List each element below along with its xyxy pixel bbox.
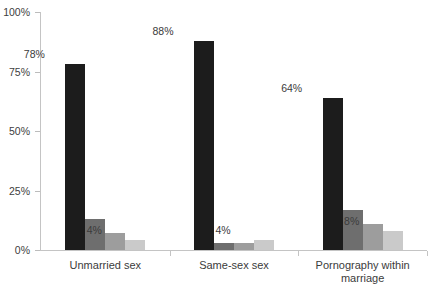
x-axis-line [40, 250, 427, 251]
y-axis-tick-label: 75% [9, 66, 30, 77]
bar [65, 64, 85, 250]
bar-group [41, 12, 170, 250]
x-axis-category-label: Pornography within marriage [288, 259, 433, 285]
bar [214, 243, 234, 250]
y-axis-tick-label: 100% [3, 7, 30, 18]
x-axis-category-label: Same-sex sex [160, 259, 309, 272]
x-axis-category-label: Unmarried sex [31, 259, 180, 272]
bar [125, 240, 145, 250]
y-axis-tick-label: 25% [9, 185, 30, 196]
bar [194, 41, 214, 250]
bar-chart: 0%25%50%75%100% Unmarried sexSame-sex se… [0, 0, 433, 297]
bar [254, 240, 274, 250]
bar [323, 98, 343, 250]
x-axis-separator-tick [298, 251, 299, 256]
bar [363, 224, 383, 250]
bar-value-label: 4% [215, 225, 230, 236]
plot-area [41, 12, 427, 250]
bar-group [298, 12, 427, 250]
bar [105, 233, 125, 250]
bar-group [170, 12, 299, 250]
bar [234, 243, 254, 250]
y-axis-tick-label: 0% [15, 245, 30, 256]
y-axis: 0%25%50%75%100% [0, 0, 36, 297]
bar-value-label: 88% [152, 26, 173, 37]
x-axis-separator-tick [170, 251, 171, 256]
bar-value-label: 8% [344, 216, 359, 227]
x-axis-separator-tick [427, 251, 428, 256]
bar-value-label: 78% [24, 49, 45, 60]
y-axis-tick-label: 50% [9, 126, 30, 137]
bar-value-label: 64% [281, 83, 302, 94]
bar [383, 231, 403, 250]
bar-value-label: 4% [87, 225, 102, 236]
